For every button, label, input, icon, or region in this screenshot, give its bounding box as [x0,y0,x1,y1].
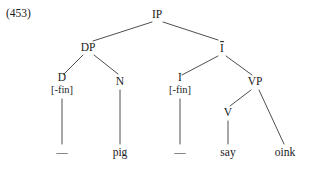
terminal-vp-oink: oink [275,146,295,158]
tree-edge-dp-to-d [64,55,83,74]
tree-node-vp: VP [248,76,263,88]
tree-node-d: D [-fin] [51,72,73,95]
tree-node-i-bar-label: I [220,41,224,54]
tree-edge-ibar-to-vp [226,56,252,75]
tree-node-v-label: V [224,107,232,119]
tree-node-n-label: N [116,76,124,88]
tree-node-v: V [224,107,232,119]
terminal-i-null: — [174,146,186,158]
syntax-tree-figure: (453) IP DP I D [-fin] N I [-fin] VP V —… [0,0,310,170]
terminal-d-null: — [56,146,68,158]
tree-node-i: I [-fin] [169,72,191,95]
tree-edge-vp-to-v [230,90,251,106]
terminal-n-pig: pig [113,146,128,158]
tree-node-vp-label: VP [248,76,263,88]
tree-node-dp-label: DP [81,42,96,54]
tree-node-i-feature: [-fin] [169,85,191,96]
tree-node-i-bar: I [220,41,224,55]
terminal-v-say: say [220,146,235,158]
tree-edge-ip-to-ibar [163,22,218,40]
tree-edge-dp-to-n [94,55,118,74]
tree-branch-lines [0,0,310,170]
tree-node-ip-label: IP [152,9,162,21]
tree-node-d-label: D [51,72,73,84]
tree-node-n: N [116,76,124,88]
tree-node-d-feature: [-fin] [51,85,73,96]
tree-edge-vp-to-oink [259,90,284,144]
tree-node-i-label: I [169,72,191,84]
tree-node-ip: IP [152,9,162,21]
tree-node-dp: DP [81,42,96,54]
tree-edge-ip-to-dp [93,22,152,41]
